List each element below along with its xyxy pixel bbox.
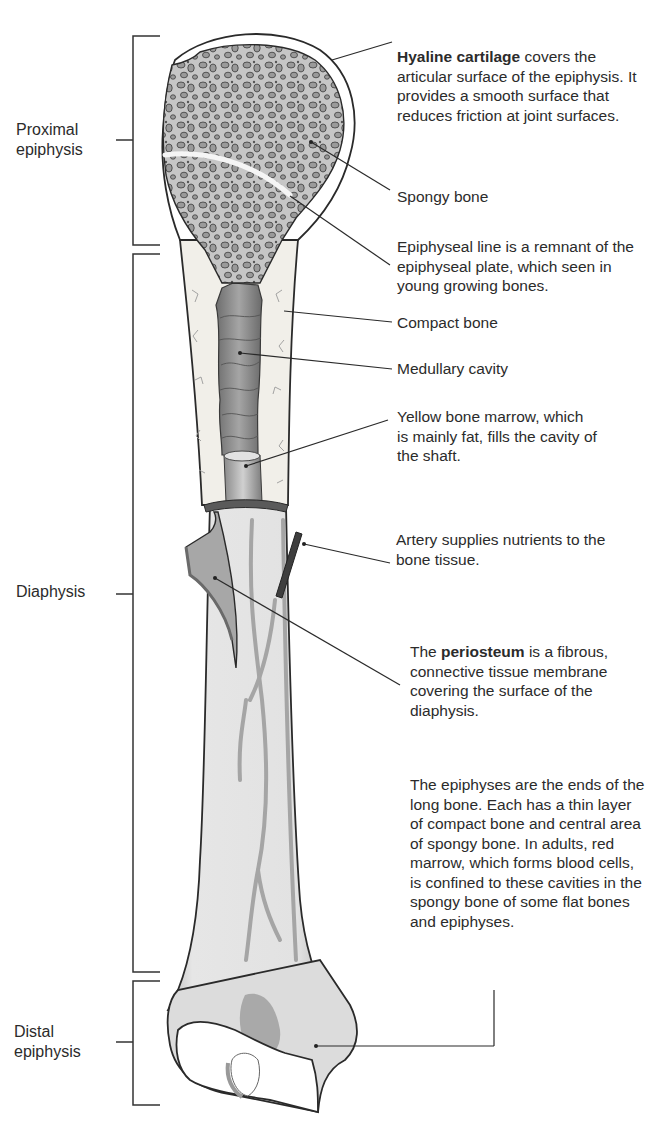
callout-yellow-marrow: Yellow bone marrow, which is mainly fat,… [397,407,597,466]
region-label-line: Distal [14,1022,81,1042]
callout-spongy-bone: Spongy bone [397,187,637,207]
callout-description: Compact bone [397,314,498,331]
callout-term: periosteum [441,643,525,660]
region-brackets [116,36,160,1105]
callout-prefix: The [410,643,441,660]
region-label-line: Proximal [16,120,83,140]
callout-description: Yellow bone marrow, which is mainly fat,… [397,408,597,464]
callout-periosteum: The periosteum is a fibrous, connective … [410,642,635,720]
region-label-line: Diaphysis [16,582,85,602]
region-label-proximal-epiphysis: Proximal epiphysis [16,120,83,160]
callout-compact-bone: Compact bone [397,313,637,333]
callout-description: Epiphyseal line is a remnant of the epip… [397,238,634,294]
region-label-distal-epiphysis: Distal epiphysis [14,1022,81,1062]
region-label-line: epiphysis [14,1042,81,1062]
callout-hyaline-cartilage: Hyaline cartilage covers the articular s… [397,47,647,125]
callout-description: Medullary cavity [397,360,508,377]
callout-term: Hyaline cartilage [397,48,520,65]
callout-artery: Artery supplies nutrients to the bone ti… [396,530,616,569]
callout-description: The epiphyses are the ends of the long b… [410,776,644,930]
region-label-diaphysis: Diaphysis [16,582,85,602]
callout-medullary-cavity: Medullary cavity [397,359,637,379]
callout-description: Spongy bone [397,188,488,205]
callout-epiphyseal-line: Epiphyseal line is a remnant of the epip… [397,237,647,296]
medullary-cavity-shape [216,283,262,455]
callout-epiphyses: The epiphyses are the ends of the long b… [410,775,647,931]
region-label-line: epiphysis [16,140,83,160]
callout-description: Artery supplies nutrients to the bone ti… [396,531,605,568]
